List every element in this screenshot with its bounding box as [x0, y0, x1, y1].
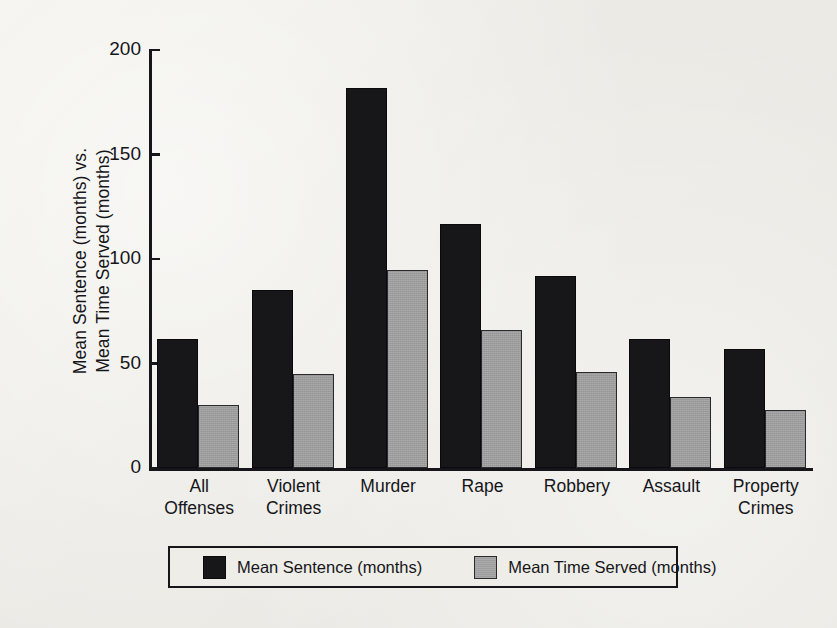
bar-group	[624, 50, 718, 468]
bar-mean-sentence	[535, 276, 576, 468]
bar-group	[246, 50, 340, 468]
bar-mean-time-served	[387, 270, 428, 468]
bar-mean-sentence	[157, 339, 198, 468]
x-category-label: Rape	[435, 476, 529, 498]
x-category-label-line2: Crimes	[719, 498, 813, 520]
y-tick-label-50: 50	[83, 352, 141, 374]
bar-group	[719, 50, 813, 468]
y-tick-label-0: 0	[83, 456, 141, 478]
x-axis-category-labels: AllOffensesViolentCrimesMurderRapeRobber…	[152, 476, 813, 532]
x-category-label: AllOffenses	[152, 476, 246, 519]
x-category-label-line1: Murder	[341, 476, 435, 498]
bar-mean-time-served	[481, 330, 522, 468]
bar-chart: Mean Sentence (months) vs. Mean Time Ser…	[0, 0, 837, 628]
legend-dark-swatch-icon	[203, 556, 226, 579]
bar-mean-time-served	[670, 397, 711, 468]
x-category-label: Murder	[341, 476, 435, 498]
bar-mean-sentence	[724, 349, 765, 468]
y-tick-label-200: 200	[83, 38, 141, 60]
x-category-label-line1: Assault	[624, 476, 718, 498]
bar-group	[341, 50, 435, 468]
x-category-label-line1: All	[152, 476, 246, 498]
bar-mean-time-served	[765, 410, 806, 468]
legend-label-mean-time-served: Mean Time Served (months)	[508, 558, 716, 577]
x-category-label-line2: Crimes	[246, 498, 340, 520]
bar-mean-time-served	[576, 372, 617, 468]
x-category-label-line2: Offenses	[152, 498, 246, 520]
y-tick-label-150: 150	[83, 143, 141, 165]
bar-mean-sentence	[252, 290, 293, 468]
plot-area	[152, 50, 813, 468]
bar-mean-sentence	[346, 88, 387, 468]
bar-group	[530, 50, 624, 468]
legend-light-swatch-icon	[474, 556, 497, 579]
bar-mean-time-served	[198, 405, 239, 468]
y-tick-label-100: 100	[83, 247, 141, 269]
legend-label-mean-sentence: Mean Sentence (months)	[237, 558, 422, 577]
x-category-label: ViolentCrimes	[246, 476, 340, 519]
bar-group	[435, 50, 529, 468]
bar-mean-sentence	[440, 224, 481, 468]
bar-mean-sentence	[629, 339, 670, 468]
x-category-label-line1: Property	[719, 476, 813, 498]
x-category-label: Robbery	[530, 476, 624, 498]
bar-mean-time-served	[293, 374, 334, 468]
x-axis-line	[149, 468, 813, 471]
chart-legend: Mean Sentence (months) Mean Time Served …	[168, 546, 678, 588]
x-category-label-line1: Robbery	[530, 476, 624, 498]
legend-item-mean-sentence: Mean Sentence (months)	[203, 548, 422, 586]
legend-item-mean-time-served: Mean Time Served (months)	[474, 548, 716, 586]
bar-group	[152, 50, 246, 468]
x-category-label-line1: Rape	[435, 476, 529, 498]
x-category-label-line1: Violent	[246, 476, 340, 498]
chart-page: Mean Sentence (months) vs. Mean Time Ser…	[0, 0, 837, 628]
x-category-label: PropertyCrimes	[719, 476, 813, 519]
x-category-label: Assault	[624, 476, 718, 498]
